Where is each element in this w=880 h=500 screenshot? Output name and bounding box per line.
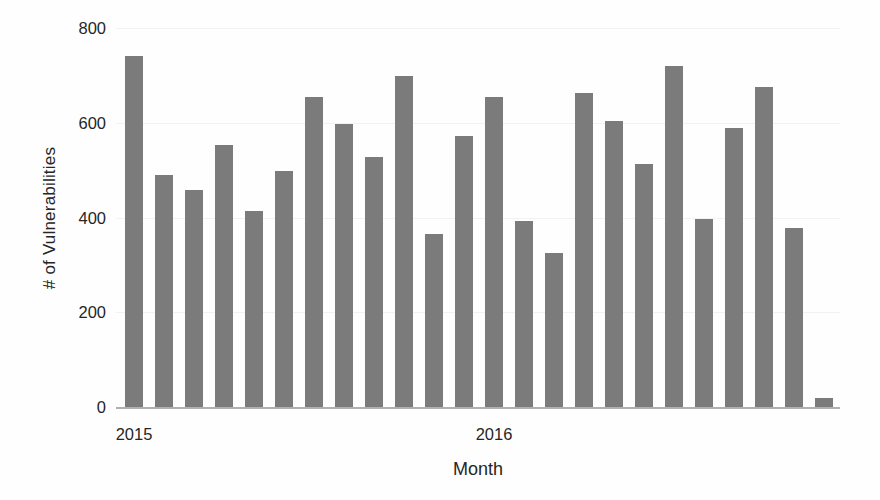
bar <box>725 128 743 408</box>
bar <box>395 76 413 407</box>
bar <box>695 219 713 407</box>
bar <box>245 211 263 407</box>
bar <box>605 121 623 407</box>
y-axis-title: # of Vulnerabilities <box>40 98 60 338</box>
bar <box>785 228 803 407</box>
bar <box>575 93 593 407</box>
bar <box>365 157 383 407</box>
y-axis-tick-labels: 8006004002000 <box>60 0 106 500</box>
x-axis-title-text: Month <box>453 459 503 479</box>
bar <box>665 66 683 407</box>
x-axis-title: Month <box>0 459 880 480</box>
bars-layer <box>116 28 840 407</box>
plot-area <box>116 20 840 408</box>
bar <box>635 164 653 407</box>
bar <box>335 124 353 407</box>
bar <box>455 136 473 407</box>
bar <box>755 87 773 407</box>
bar <box>545 253 563 407</box>
y-axis-tick-label: 200 <box>60 304 106 321</box>
x-axis-line <box>116 407 840 409</box>
x-axis-tick-label: 2016 <box>434 426 554 443</box>
bar <box>185 190 203 407</box>
bar <box>515 221 533 407</box>
bar <box>485 97 503 407</box>
y-axis-tick-label: 400 <box>60 210 106 227</box>
bar <box>215 145 233 407</box>
bar <box>425 234 443 407</box>
bar <box>275 171 293 407</box>
bar-chart: # of Vulnerabilities 8006004002000 20152… <box>0 0 880 500</box>
y-axis-tick-label: 600 <box>60 115 106 132</box>
y-axis-tick-label: 0 <box>60 399 106 416</box>
x-axis-tick-label: 2015 <box>74 426 194 443</box>
bar <box>815 398 833 407</box>
y-axis-tick-label: 800 <box>60 20 106 37</box>
bar <box>305 97 323 407</box>
bar <box>155 175 173 407</box>
bar <box>125 56 143 407</box>
